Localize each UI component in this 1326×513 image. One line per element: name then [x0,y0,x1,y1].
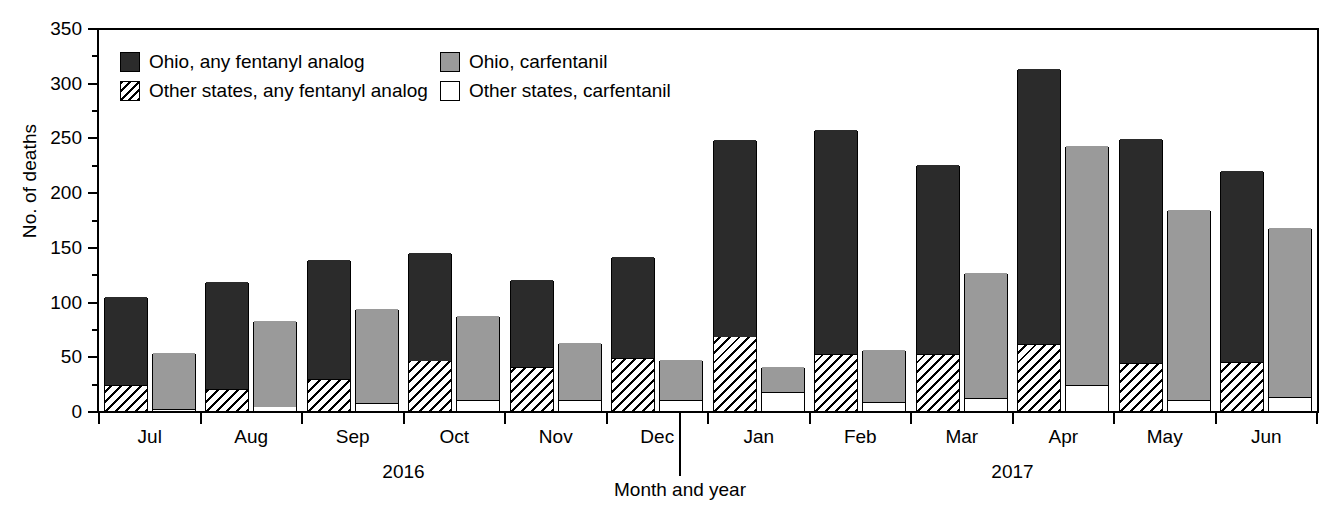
x-axis-tick [910,413,912,424]
bar-segment-other-states-analog [1221,362,1263,411]
bar-segment-other-states-carfentanil [1269,397,1311,411]
y-axis-major-tick [88,302,99,304]
bar-segment-other-states-analog [612,358,654,411]
bar-analog-may [1119,140,1163,412]
y-axis-major-tick [88,356,99,358]
x-axis-tick [98,413,100,424]
chart-legend: Ohio, any fentanyl analogOhio, carfentan… [120,47,720,105]
bar-analog-oct [408,254,452,412]
year-divider-line [679,413,681,476]
bar-chart: No. of deaths 350300250200150100500 JulA… [0,0,1326,513]
bar-carfentanil-aug [253,322,297,412]
bar-segment-ohio-analog [714,140,756,337]
bar-segment-other-states-analog [815,354,857,411]
x-axis-month-label: Dec [607,426,707,448]
bar-segment-other-states-carfentanil [762,392,804,411]
y-axis-minor-tick [92,274,99,276]
bar-analog-jul [104,298,148,412]
x-axis-month-label: Mar [912,426,1012,448]
bar-carfentanil-sep [355,310,399,412]
bar-carfentanil-jul [152,354,196,412]
bar-analog-nov [510,281,554,412]
bar-analog-feb [814,131,858,412]
x-axis-month-label: Jun [1216,426,1316,448]
bar-segment-ohio-carfentanil [660,360,702,400]
bar-segment-other-states-carfentanil [559,400,601,411]
x-axis-tick [200,413,202,424]
bar-carfentanil-apr [1065,147,1109,412]
bar-segment-other-states-analog [409,361,451,411]
bar-segment-other-states-analog [1120,363,1162,411]
x-axis-tick [504,413,506,424]
bar-segment-other-states-analog [105,385,147,411]
bar-segment-ohio-analog [815,130,857,354]
x-axis-tick [707,413,709,424]
bar-analog-sep [307,261,351,412]
bar-carfentanil-mar [964,274,1008,412]
bar-segment-ohio-analog [917,165,959,354]
x-axis-tick [606,413,608,424]
x-axis-month-label: Sep [303,426,403,448]
legend-swatch-solid-gray [440,52,460,72]
y-axis-tick-label: 350 [30,19,82,38]
bar-analog-jun [1220,172,1264,412]
y-axis-major-tick [88,247,99,249]
legend-label: Other states, any fentanyl analog [149,80,428,102]
legend-item: Other states, carfentanil [440,80,671,102]
x-axis-tick [809,413,811,424]
bar-segment-ohio-analog [612,257,654,359]
x-axis-month-label: May [1115,426,1215,448]
x-axis-tick [1316,413,1318,424]
bar-segment-ohio-analog [206,282,248,389]
bar-segment-ohio-carfentanil [1168,210,1210,400]
y-axis-tick-label: 300 [30,74,82,93]
y-axis-major-tick [88,192,99,194]
bar-segment-other-states-carfentanil [356,403,398,411]
x-axis-month-label: Aug [201,426,301,448]
x-axis-tick [1012,413,1014,424]
bar-segment-other-states-carfentanil [660,400,702,411]
y-axis-tick-label: 150 [30,238,82,257]
x-axis-month-label: Apr [1013,426,1113,448]
bar-segment-other-states-analog [308,379,350,411]
bar-analog-apr [1017,70,1061,413]
x-axis-title: Month and year [540,479,820,501]
bar-segment-ohio-carfentanil [863,350,905,403]
y-axis-tick-label: 50 [30,347,82,366]
plot-right-border [1317,28,1319,413]
x-axis-month-label: Nov [506,426,606,448]
y-axis-labels: 350300250200150100500 [20,0,82,513]
x-axis-tick [1113,413,1115,424]
bar-segment-other-states-analog [1018,344,1060,411]
bar-carfentanil-feb [862,351,906,412]
bar-segment-ohio-carfentanil [254,321,296,406]
legend-row: Other states, any fentanyl analogOther s… [120,76,720,105]
bar-segment-other-states-analog [206,389,248,411]
bar-segment-other-states-carfentanil [1168,400,1210,411]
bar-segment-ohio-carfentanil [559,343,601,400]
y-axis-tick-label: 0 [30,402,82,421]
bar-segment-ohio-carfentanil [762,367,804,392]
legend-label: Ohio, any fentanyl analog [149,51,365,73]
bar-segment-ohio-carfentanil [356,309,398,403]
bar-analog-mar [916,166,960,412]
y-axis-minor-tick [92,384,99,386]
y-axis-major-tick [88,28,99,30]
bar-segment-ohio-analog [1221,171,1263,361]
legend-item: Ohio, any fentanyl analog [120,51,440,73]
legend-item: Ohio, carfentanil [440,51,607,73]
x-axis-month-label: Oct [404,426,504,448]
bar-segment-ohio-analog [409,253,451,360]
bar-segment-other-states-carfentanil [1066,385,1108,411]
bar-segment-ohio-analog [511,280,553,368]
y-axis-tick-label: 200 [30,183,82,202]
bar-carfentanil-jun [1268,229,1312,412]
x-axis-year-label: 2016 [344,461,464,483]
x-axis-month-label: Feb [810,426,910,448]
bar-segment-other-states-carfentanil [863,402,905,411]
bar-segment-ohio-analog [105,297,147,385]
bar-carfentanil-dec [659,361,703,412]
bar-segment-ohio-analog [308,260,350,379]
y-axis-tick-label: 250 [30,128,82,147]
y-axis-minor-tick [92,110,99,112]
